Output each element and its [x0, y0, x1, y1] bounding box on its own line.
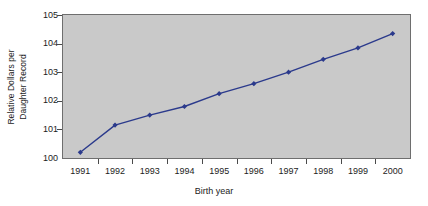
y-axis-tick-mark — [57, 101, 62, 102]
y-axis-tick-label: 104 — [32, 39, 58, 48]
x-axis-tick-mark — [237, 159, 238, 164]
y-axis-tick-label: 101 — [32, 125, 58, 134]
chart-figure: Relative Dollars per Daughter Record 100… — [0, 0, 428, 206]
data-point-marker — [321, 57, 326, 62]
data-series-svg — [63, 15, 410, 158]
data-point-marker — [147, 113, 152, 118]
x-axis-tick-mark — [306, 159, 307, 164]
data-point-marker — [355, 45, 360, 50]
y-axis-label: Relative Dollars per Daughter Record — [0, 14, 30, 159]
y-axis-tick-mark — [57, 72, 62, 73]
data-markers — [78, 31, 396, 155]
y-axis-label-line-1: Relative Dollars per — [6, 49, 16, 124]
x-axis-label: Birth year — [0, 186, 428, 196]
data-point-marker — [286, 70, 291, 75]
y-axis-label-line-2: Daughter Record — [18, 54, 28, 119]
x-axis-tick-mark — [167, 159, 168, 164]
x-axis-tick-labels: 1991199219931994199519961997199819992000 — [0, 166, 428, 180]
y-axis-tick-label: 100 — [32, 154, 58, 163]
x-axis-tick-mark — [271, 159, 272, 164]
x-axis-tick-label: 2000 — [371, 166, 415, 176]
x-axis-tick-mark — [375, 159, 376, 164]
data-line — [80, 34, 392, 153]
x-axis-tick-mark — [132, 159, 133, 164]
y-axis-tick-label: 103 — [32, 68, 58, 77]
data-point-marker — [217, 91, 222, 96]
y-axis-tick-mark — [57, 15, 62, 16]
data-point-marker — [390, 31, 395, 36]
plot-area — [62, 14, 411, 159]
data-point-marker — [251, 81, 256, 86]
y-axis-tick-label: 102 — [32, 96, 58, 105]
y-axis-tick-label: 105 — [32, 11, 58, 20]
x-axis-tick-mark — [202, 159, 203, 164]
x-axis-tick-mark — [98, 159, 99, 164]
y-axis-tick-mark — [57, 129, 62, 130]
data-point-marker — [182, 104, 187, 109]
y-axis-tick-mark — [57, 44, 62, 45]
x-axis-tick-mark — [341, 159, 342, 164]
